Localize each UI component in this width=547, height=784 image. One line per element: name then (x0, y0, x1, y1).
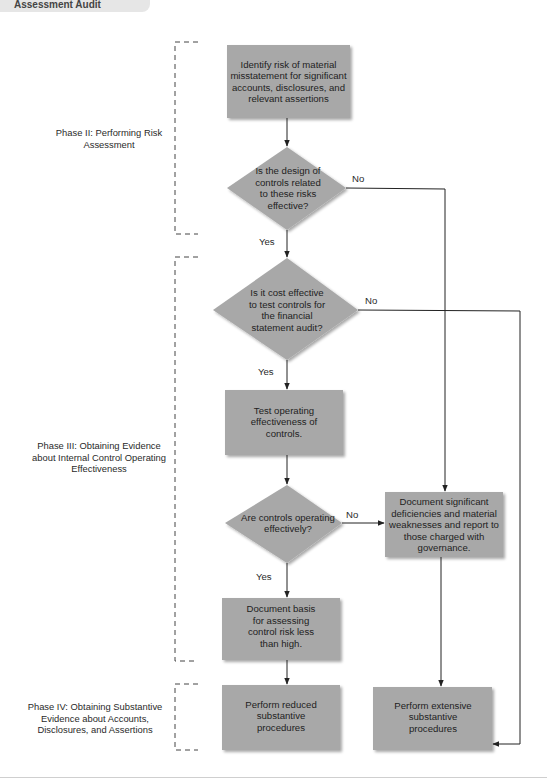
edge-label-cost-no: No (365, 295, 377, 306)
edge-label-design-no: No (352, 173, 364, 184)
page-bottom-rule (0, 777, 547, 778)
phase4-label: Phase IV: Obtaining Substantive Evidence… (20, 701, 170, 736)
node-operating-effectively-text: Are controls operating effectively? (240, 505, 336, 541)
node-test-operating-text: Test operating effectiveness of controls… (250, 392, 318, 452)
node-reduced-substantive-text: Perform reduced substantive procedures (244, 687, 318, 745)
edge-label-cost-yes: Yes (258, 366, 274, 377)
edge-label-operating-yes: Yes (256, 571, 272, 582)
phase3-label: Phase III: Obtaining Evidence about Inte… (30, 440, 168, 475)
edge-label-design-yes: Yes (259, 236, 275, 247)
phase4-bracket (175, 684, 198, 750)
node-cost-effective-text: Is it cost effective to test controls fo… (245, 276, 329, 344)
edge-design-no (346, 188, 445, 491)
edge-label-operating-no: No (346, 509, 358, 520)
node-identify-risk-text: Identify risk of material misstatement f… (230, 47, 347, 116)
phase2-label: Phase II: Performing Risk Assessment (50, 127, 168, 150)
node-document-basis-text: Document basis for assessing control ris… (240, 600, 322, 652)
node-document-deficiencies-text: Document significant deficiencies and ma… (388, 494, 500, 556)
node-extensive-substantive-text: Perform extensive substantive procedures (393, 688, 473, 746)
node-design-effective-text: Is the design of controls related to the… (250, 160, 326, 216)
phase3-bracket (175, 257, 198, 661)
phase2-bracket (175, 42, 198, 234)
